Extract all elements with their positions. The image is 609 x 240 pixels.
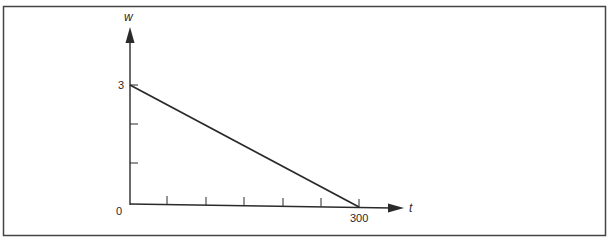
chart-figure: w 3 0 300 t [0,0,609,240]
x-axis-arrow-icon [388,204,404,213]
x-axis: 0 300 t [116,196,413,224]
origin-label: 0 [116,205,122,217]
x-tick-label-300: 300 [350,212,368,224]
y-axis-label: w [124,10,134,24]
x-axis-label: t [409,201,413,215]
y-axis-arrow-icon [126,27,135,43]
figure-border [4,7,606,236]
y-tick-label-3: 3 [118,79,124,91]
series-line-w-t [130,85,359,207]
y-axis: w 3 [118,10,138,205]
